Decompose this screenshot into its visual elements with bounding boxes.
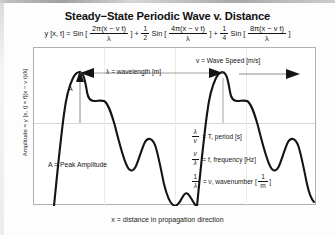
wavenumber-unit-numerator: 1 <box>259 174 267 181</box>
frequency-fraction: v λ <box>190 151 200 167</box>
annotation-wavelength: λ = wavelength [m] <box>106 68 161 75</box>
equation-term2-denominator: λ <box>184 34 192 42</box>
annotation-peak-amplitude: A = Peak Amplitude <box>48 161 107 168</box>
annotation-wave-speed: v = Wave Speed [m/s] <box>196 57 260 64</box>
wavenumber-tail: ] <box>269 178 271 185</box>
equation-coef3-denominator: 4 <box>220 34 228 41</box>
period-label: = T, period [s] <box>200 133 242 140</box>
figure-page: Steady−State Periodic Wave v. Distance y… <box>0 0 335 235</box>
wavenumber-label: = ν, wavenumber [ <box>201 178 257 185</box>
formula-wavenumber: 1 λ = ν, wavenumber [ 1 m ] <box>190 174 271 190</box>
wavenumber-unit-fraction: 1 m <box>257 174 270 190</box>
x-axis-label: x = distance in propagation direction <box>0 216 335 223</box>
formula-frequency: v λ = f, frequency [Hz] <box>190 151 271 167</box>
period-numerator: λ <box>192 129 199 136</box>
waveform-curve <box>34 48 317 206</box>
equation-term3-numerator: 8π(x − v t) <box>248 25 286 33</box>
equation-term1-denominator: λ <box>105 34 113 42</box>
equation-term1-numerator: 2π(x − v t) <box>90 25 128 33</box>
equation-term3-fraction: 8π(x − v t) λ <box>246 25 287 43</box>
plot-area <box>33 47 316 205</box>
equation-term2-close: ] + <box>208 29 218 38</box>
period-fraction: λ v <box>190 129 200 145</box>
y-axis-label: Amplitude = y [x, t] = f[(x − v t)/λ] <box>21 15 28 211</box>
equation-term2-numerator: 4π(x − v t) <box>169 25 207 33</box>
period-denominator: v <box>192 137 199 144</box>
equation-lhs: y [x, t] = Sin [ <box>44 29 89 38</box>
equation-term3-denominator: λ <box>263 34 271 42</box>
wavenumber-numerator: 1 <box>192 174 200 181</box>
annotation-amplitude-letter: A <box>68 85 73 92</box>
equation-coef2-fraction: 1 2 <box>140 26 151 42</box>
frequency-label: = f, frequency [Hz] <box>200 156 256 163</box>
wavenumber-unit-denominator: m <box>258 182 268 189</box>
equation-coef2-denominator: 2 <box>141 34 149 41</box>
equation-coef2-numerator: 1 <box>141 26 149 33</box>
wavenumber-fraction: 1 λ <box>190 174 201 190</box>
equation-sin3: Sin [ <box>230 29 247 38</box>
formula-list: λ v = T, period [s] v λ = f, frequency [… <box>190 129 271 190</box>
equation-term3-close: ] <box>287 29 291 38</box>
wavenumber-denominator: λ <box>192 182 199 189</box>
equation-term2-fraction: 4π(x − v t) λ <box>167 25 208 43</box>
formula-period: λ v = T, period [s] <box>190 129 271 145</box>
frequency-numerator: v <box>192 151 199 158</box>
frequency-denominator: λ <box>192 160 199 167</box>
equation-coef3-numerator: 1 <box>220 26 228 33</box>
wave-equation: y [x, t] = Sin [ 2π(x − v t) λ ] + 1 2 S… <box>0 25 335 43</box>
figure-title: Steady−State Periodic Wave v. Distance <box>0 10 335 22</box>
equation-coef3-fraction: 1 4 <box>219 26 230 42</box>
equation-sin2: Sin [ <box>151 29 168 38</box>
equation-term1-close: ] + <box>130 29 140 38</box>
equation-term1-fraction: 2π(x − v t) λ <box>88 25 129 43</box>
scan-edge-artifact <box>0 0 335 3</box>
